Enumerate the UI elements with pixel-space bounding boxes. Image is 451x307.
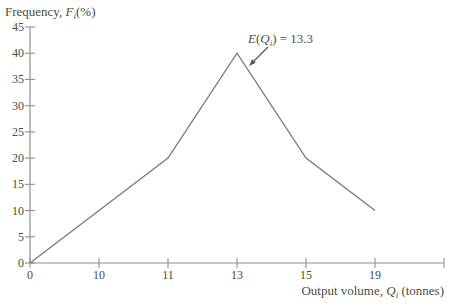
x-tick-label: 10 [93,268,105,282]
y-tick-label: 0 [18,256,24,270]
y-tick-label: 45 [12,20,24,34]
x-tick-label: 11 [162,268,174,282]
y-tick-label: 30 [12,99,24,113]
x-tick-label: 0 [27,268,33,282]
y-tick-label: 15 [12,177,24,191]
expected-value-annotation: E(Qi) = 13.3 [247,31,313,48]
x-axis-title: Output volume, Qi (tonnes) [301,283,444,300]
y-tick-label: 40 [12,46,24,60]
frequency-polygon-line [30,53,375,263]
y-tick-label: 25 [12,125,24,139]
x-tick-label: 15 [300,268,312,282]
y-axis-title: Frequency, Fi(%) [5,4,96,21]
annotation-arrow-shaft [254,47,268,61]
x-tick-label: 13 [231,268,243,282]
y-tick-label: 10 [12,204,24,218]
frequency-polygon-chart: 05101520253035404501011131519Frequency, … [0,0,451,307]
y-tick-label: 20 [12,151,24,165]
chart-container: 05101520253035404501011131519Frequency, … [0,0,451,307]
x-tick-label: 19 [369,268,381,282]
y-tick-label: 35 [12,72,24,86]
y-tick-label: 5 [18,230,24,244]
